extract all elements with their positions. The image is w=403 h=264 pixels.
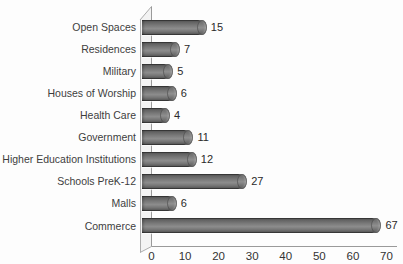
category-label: Government (0, 130, 136, 144)
x-axis-tick-label: 50 (313, 250, 326, 263)
category-label: Open Spaces (0, 20, 136, 34)
bar (142, 152, 196, 167)
category-label: Higher Education Institutions (0, 152, 136, 166)
bar-end-cap (160, 108, 170, 123)
bar-end-cap (167, 196, 177, 211)
bar (142, 108, 169, 123)
category-label: Commerce (0, 219, 136, 233)
x-axis-tick-label: 0 (148, 250, 154, 263)
x-axis-tick-label: 20 (212, 250, 225, 263)
category-label: Military (0, 64, 136, 78)
bar (142, 86, 176, 101)
bar-end-cap (197, 20, 207, 35)
bar-end-cap (170, 42, 180, 57)
x-axis-tick-label: 70 (380, 250, 393, 263)
bar (142, 20, 206, 35)
value-label: 5 (177, 64, 183, 79)
x-axis-tick-label: 40 (279, 250, 292, 263)
category-label: Malls (0, 196, 136, 210)
bar (142, 174, 246, 189)
bar-end-cap (163, 64, 173, 79)
bar-chart-figure: Open Spaces15Residences7Military5Houses … (0, 0, 403, 264)
bar-end-cap (167, 86, 177, 101)
value-label: 6 (181, 196, 187, 211)
value-label: 27 (251, 174, 263, 189)
plot-area: Open Spaces15Residences7Military5Houses … (0, 0, 403, 264)
category-label: Residences (0, 42, 136, 56)
x-axis-tick-label: 30 (246, 250, 259, 263)
x-axis-tick-label: 60 (347, 250, 360, 263)
x-axis-tick-label: 10 (179, 250, 192, 263)
bar-end-cap (187, 152, 197, 167)
category-label: Houses of Worship (0, 86, 136, 100)
bar-end-cap (237, 174, 247, 189)
bar (142, 42, 179, 57)
value-label: 7 (184, 42, 190, 57)
category-label: Health Care (0, 108, 136, 122)
value-label: 15 (211, 20, 223, 35)
value-label: 6 (181, 86, 187, 101)
bar-end-cap (371, 218, 381, 233)
bar-end-cap (183, 130, 193, 145)
value-label: 12 (201, 152, 213, 167)
bar (142, 64, 172, 79)
bar (142, 218, 380, 233)
value-label: 11 (197, 130, 208, 145)
bar (142, 196, 176, 211)
value-label: 4 (174, 108, 180, 123)
value-label: 67 (385, 218, 397, 233)
category-label: Schools PreK-12 (0, 174, 136, 188)
bar (142, 130, 192, 145)
